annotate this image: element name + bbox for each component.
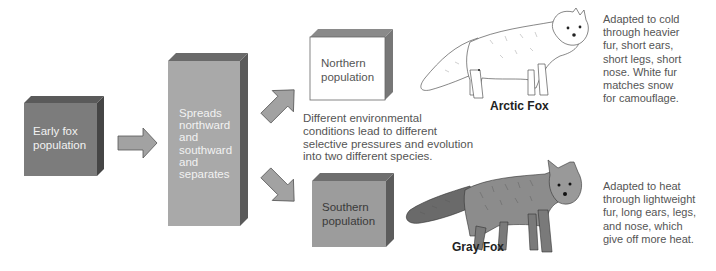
gray-fox-description: Adapted to heat through lightweight fur,… bbox=[603, 180, 696, 246]
arctic-desc-line: Adapted to cold bbox=[603, 13, 681, 26]
gray-desc-line: Adapted to heat bbox=[603, 180, 696, 193]
gray-desc-line: and nose, which bbox=[603, 220, 696, 233]
arctic-desc-line: through heavier bbox=[603, 26, 681, 39]
gray-desc-line: fur, long ears, legs, bbox=[603, 206, 696, 219]
arctic-desc-line: matches snow bbox=[603, 79, 681, 92]
arctic-desc-line: fur, short ears, bbox=[603, 39, 681, 52]
arctic-fox-description: Adapted to cold through heavier fur, sho… bbox=[603, 13, 681, 105]
gray-desc-line: through lightweight bbox=[603, 193, 696, 206]
arctic-desc-line: nose. White fur bbox=[603, 66, 681, 79]
gray-fox-label: Gray Fox bbox=[452, 240, 504, 254]
gray-desc-line: give off more heat. bbox=[603, 233, 696, 246]
arctic-desc-line: short legs, short bbox=[603, 53, 681, 66]
arctic-desc-line: for camouflage. bbox=[603, 92, 681, 105]
